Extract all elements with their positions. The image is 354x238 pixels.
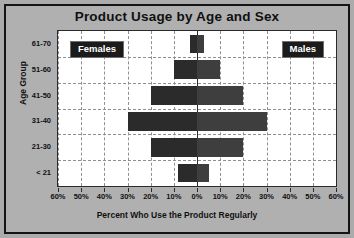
- bar-row: [58, 164, 336, 183]
- x-axis-tick-label: 50%: [74, 192, 89, 201]
- bar-row: [58, 112, 336, 131]
- x-axis-tick-label: 20%: [143, 192, 158, 201]
- y-axis-tick-label: 31-40: [32, 116, 51, 125]
- gridline-vertical: [336, 31, 337, 186]
- chart-window: Product Usage by Age and Sex Age Group 6…: [0, 0, 354, 238]
- y-axis-tick-label: 61-70: [32, 38, 51, 47]
- x-axis-tick-label: 30%: [120, 192, 135, 201]
- bar-females: [128, 112, 198, 131]
- x-axis-tick-label: 60%: [50, 192, 65, 201]
- legend-females: Females: [70, 41, 124, 58]
- bar-males: [197, 60, 220, 79]
- bar-females: [151, 138, 197, 157]
- bar-row: [58, 86, 336, 105]
- bar-males: [197, 164, 209, 183]
- bar-females: [151, 86, 197, 105]
- bar-females: [190, 35, 197, 54]
- x-axis-tick-label: 20%: [236, 192, 251, 201]
- bar-males: [197, 35, 204, 54]
- plot-area: Females Males: [57, 30, 337, 187]
- y-axis-tick-labels: 61-7051-6041-5031-4021-30< 21: [0, 30, 55, 187]
- x-axis-tick-label: 60%: [328, 192, 343, 201]
- x-axis-tick-label: 30%: [259, 192, 274, 201]
- x-axis-tick-label: 10%: [213, 192, 228, 201]
- bar-row: [58, 60, 336, 79]
- y-axis-tick-label: 21-30: [32, 142, 51, 151]
- y-axis-tick-label: 51-60: [32, 64, 51, 73]
- bar-males: [197, 138, 243, 157]
- bar-row: [58, 138, 336, 157]
- y-axis-tick-label: 41-50: [32, 90, 51, 99]
- chart-title: Product Usage by Age and Sex: [0, 9, 354, 24]
- legend-males: Males: [282, 41, 324, 58]
- bar-males: [197, 112, 267, 131]
- x-axis-tick-label: 40%: [97, 192, 112, 201]
- x-axis-title: Percent Who Use the Product Regularly: [0, 210, 354, 220]
- x-axis-tick-labels: 60%50%40%30%20%10%0%10%20%30%40%50%60%: [57, 192, 337, 204]
- bar-females: [174, 60, 197, 79]
- x-axis-tick-label: 0%: [192, 192, 203, 201]
- bar-females: [178, 164, 197, 183]
- x-axis-tick-label: 40%: [282, 192, 297, 201]
- bar-males: [197, 86, 243, 105]
- y-axis-tick-label: < 21: [36, 168, 51, 177]
- x-axis-tick-label: 50%: [305, 192, 320, 201]
- x-axis-tick-label: 10%: [166, 192, 181, 201]
